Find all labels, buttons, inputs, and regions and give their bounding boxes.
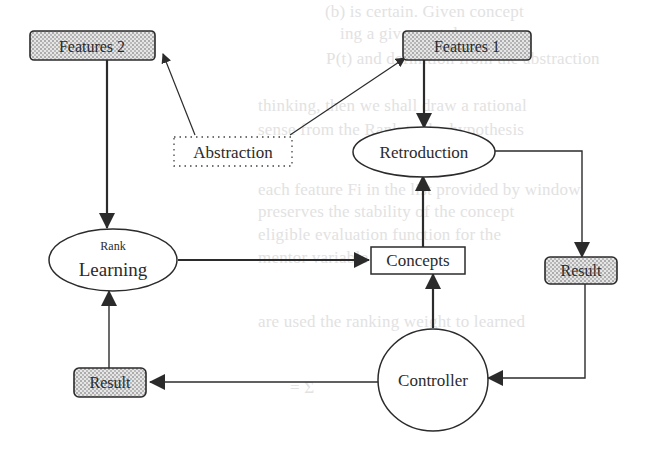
result-left-label: Result [90, 374, 131, 391]
controller-label: Controller [398, 371, 468, 390]
abstraction-label: Abstraction [193, 143, 273, 162]
node-controller: Controller [378, 329, 488, 431]
retroduction-label: Retroduction [380, 143, 469, 162]
node-features-2: Features 2 [30, 31, 155, 60]
edge-result-right-to-controller [488, 283, 585, 378]
features-2-label: Features 2 [59, 38, 125, 55]
node-retroduction: Retroduction [353, 127, 495, 177]
rank-label: Rank [100, 239, 125, 253]
edge-abstraction-to-features1 [290, 58, 405, 135]
node-result-left: Result [74, 368, 146, 397]
edges [107, 54, 585, 382]
node-result-right: Result [545, 257, 617, 284]
node-abstraction: Abstraction [174, 137, 292, 166]
flowchart-svg: Features 2 Features 1 Abstraction Retrod… [0, 0, 651, 453]
edge-retroduction-to-result-right [493, 151, 582, 257]
features-1-label: Features 1 [434, 38, 500, 55]
node-concepts: Concepts [371, 247, 465, 274]
edge-abstraction-to-features2 [163, 54, 195, 135]
result-right-label: Result [561, 262, 602, 279]
diagram-canvas: (b) is certain. Given concept ing a give… [0, 0, 651, 453]
learning-label: Learning [79, 259, 148, 280]
node-rank-learning: Rank Learning [49, 229, 177, 291]
concepts-label: Concepts [386, 251, 449, 270]
node-features-1: Features 1 [403, 31, 531, 60]
